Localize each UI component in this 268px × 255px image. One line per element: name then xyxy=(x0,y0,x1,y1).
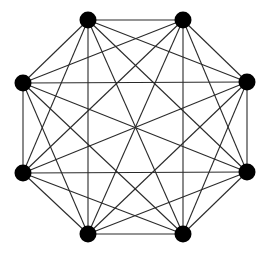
edge-n2-n5 xyxy=(88,82,247,234)
edge-n1-n2 xyxy=(183,20,247,82)
edges-group xyxy=(23,20,247,234)
node-n5 xyxy=(80,226,97,243)
edge-n0-n7 xyxy=(23,20,88,83)
edge-n5-n7 xyxy=(23,83,88,234)
edge-n0-n3 xyxy=(88,20,247,172)
complete-graph-k8 xyxy=(0,0,268,255)
node-n0 xyxy=(80,12,97,29)
edge-n5-n6 xyxy=(23,173,88,234)
node-n4 xyxy=(175,226,192,243)
edge-n3-n7 xyxy=(23,83,247,172)
node-n3 xyxy=(239,164,256,181)
edge-n2-n7 xyxy=(23,82,247,83)
edge-n2-n4 xyxy=(183,82,247,234)
edge-n1-n6 xyxy=(23,20,183,173)
edge-n3-n4 xyxy=(183,172,247,234)
edge-n3-n6 xyxy=(23,172,247,173)
node-n2 xyxy=(239,74,256,91)
node-n7 xyxy=(15,75,32,92)
edge-n4-n7 xyxy=(23,83,183,234)
node-n6 xyxy=(15,165,32,182)
node-n1 xyxy=(175,12,192,29)
edge-n4-n6 xyxy=(23,173,183,234)
edge-n1-n3 xyxy=(183,20,247,172)
